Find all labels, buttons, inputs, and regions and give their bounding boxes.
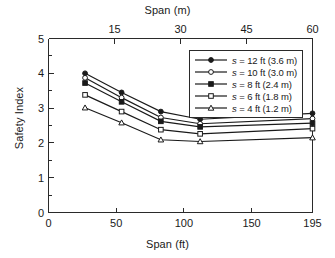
legend-marker-sample [194,66,228,78]
y-tick-label: 4 [20,67,44,79]
data-point-marker [159,127,164,132]
legend-point-marker [208,105,214,110]
legend: s = 12 ft (3.6 m)s = 10 ft (3.0 m)s = 8 … [189,50,303,118]
legend-point-marker [209,58,214,63]
legend-point-marker [209,82,214,87]
legend-label: s = 4 ft (1.2 m) [228,103,292,114]
x-tick-label: 50 [110,217,122,229]
chart-figure: Span (m) Span (ft) Safety Index s = 12 f… [0,0,335,258]
legend-label: s = 12 ft (3.6 m) [228,55,297,66]
data-point-marker [119,100,124,105]
legend-row: s = 10 ft (3.0 m) [194,66,297,78]
data-point-marker [83,93,88,98]
legend-marker-sample [194,102,228,114]
data-point-marker [82,105,88,110]
legend-point-marker [209,70,214,75]
top-x-tick-label: 30 [174,23,186,35]
data-point-marker [310,111,315,116]
x-tick-label: 100 [175,217,193,229]
y-tick-label: 1 [20,172,44,184]
data-point-marker [119,120,125,125]
x-tick-label: 195 [303,217,321,229]
top-x-tick-label: 45 [240,23,252,35]
data-point-marker [83,81,88,86]
y-tick-label: 5 [20,33,44,45]
data-point-marker [83,75,88,80]
top-x-tick-label: 60 [306,23,318,35]
legend-marker-sample [194,54,228,66]
data-point-marker [158,137,164,142]
top-x-tick-label: 15 [108,23,120,35]
legend-label: s = 10 ft (3.0 m) [228,67,297,78]
data-point-marker [198,125,203,130]
legend-row: s = 4 ft (1.2 m) [194,102,297,114]
data-point-marker [198,132,203,137]
legend-point-marker [209,94,214,99]
data-point-marker [310,121,315,126]
legend-label: s = 6 ft (1.8 m) [228,91,292,102]
legend-label: s = 8 ft (2.4 m) [228,79,292,90]
y-tick-label: 3 [20,102,44,114]
x-tick-label: 150 [242,217,260,229]
legend-label-text: = 8 ft (2.4 m) [237,79,292,90]
x-tick-label: 0 [45,217,51,229]
y-tick-label: 2 [20,137,44,149]
data-point-marker [159,119,164,124]
y-tick-label: 0 [20,207,44,219]
data-point-marker [197,139,203,144]
data-point-marker [310,126,315,131]
data-point-marker [310,116,315,121]
legend-label-text: = 4 ft (1.2 m) [237,103,292,114]
data-point-marker [119,90,124,95]
legend-row: s = 6 ft (1.8 m) [194,90,297,102]
legend-label-text: = 12 ft (3.6 m) [237,55,297,66]
data-point-marker [158,109,163,114]
data-point-marker [119,109,124,114]
legend-row: s = 8 ft (2.4 m) [194,78,297,90]
legend-label-text: = 6 ft (1.8 m) [237,91,292,102]
data-point-marker [310,135,316,140]
legend-marker-sample [194,78,228,90]
legend-marker-sample [194,90,228,102]
legend-row: s = 12 ft (3.6 m) [194,54,297,66]
legend-label-text: = 10 ft (3.0 m) [237,67,297,78]
